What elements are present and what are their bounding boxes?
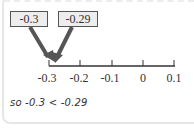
tick-label: -0.3 xyxy=(38,71,57,86)
tick-label: -0.1 xyxy=(101,71,120,86)
tick-label: 0 xyxy=(140,71,146,86)
tick-label: -0.2 xyxy=(70,71,89,86)
number-line-diagram xyxy=(0,0,194,129)
conclusion-text: so -0.3 < -0.29 xyxy=(10,97,88,108)
arrow-icon xyxy=(52,27,72,63)
arrow-icon xyxy=(30,27,55,62)
tick-label: 0.1 xyxy=(167,71,182,86)
